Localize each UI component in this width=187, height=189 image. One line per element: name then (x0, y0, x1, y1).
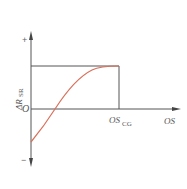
critical-label-subscript: CG (122, 120, 132, 128)
response-curve (31, 66, 119, 142)
y-axis-label-subscript: SR (17, 88, 25, 97)
diagram-canvas: + − O ΔR SR OS CG OS (0, 0, 187, 189)
x-axis-arrow-icon (172, 107, 181, 111)
minus-sign: − (21, 155, 26, 165)
critical-label-main: OS (109, 115, 120, 125)
y-axis-up-arrow-icon (29, 31, 33, 40)
y-axis-label: ΔR SR (14, 88, 25, 111)
x-axis-label: OS (164, 116, 175, 126)
y-axis-down-arrow-icon (29, 158, 33, 167)
plus-sign: + (22, 35, 27, 45)
y-axis-label-main: ΔR (14, 99, 24, 111)
